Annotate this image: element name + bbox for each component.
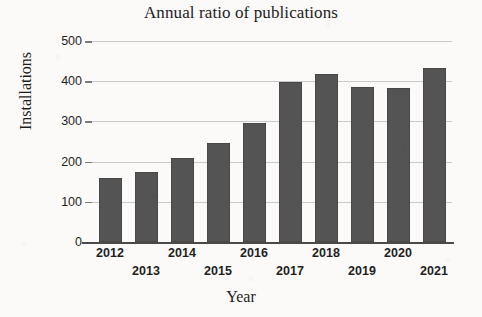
x-axis-title: Year xyxy=(0,288,482,306)
x-axis-tick-label: 2020 xyxy=(375,246,421,260)
bar xyxy=(387,88,410,242)
bar xyxy=(351,87,374,242)
y-axis-tick-label: 500 xyxy=(40,34,82,48)
x-axis-tick-label: 2015 xyxy=(195,264,241,278)
bar xyxy=(135,172,158,242)
y-axis-tick xyxy=(85,81,92,83)
y-axis-tick-label: 100 xyxy=(40,195,82,209)
x-axis-tick-label: 2019 xyxy=(339,264,385,278)
y-axis-tick xyxy=(85,162,92,164)
bar xyxy=(171,158,194,242)
x-axis-tick-label: 2021 xyxy=(411,264,457,278)
x-axis-tick-label: 2016 xyxy=(231,246,277,260)
x-axis-tick-label: 2014 xyxy=(159,246,205,260)
plot-area xyxy=(92,41,452,242)
bar xyxy=(279,82,302,242)
x-axis-tick-label: 2012 xyxy=(87,246,133,260)
bar xyxy=(315,74,338,242)
y-axis-title: Installations xyxy=(17,29,35,153)
y-axis-tick-label: 400 xyxy=(40,74,82,88)
bar xyxy=(243,123,266,242)
y-axis-tick xyxy=(85,41,92,43)
chart-title: Annual ratio of publications xyxy=(0,3,482,23)
y-axis-tick xyxy=(85,202,92,204)
x-axis-tick-label: 2013 xyxy=(123,264,169,278)
bar xyxy=(99,178,122,242)
bar xyxy=(207,143,230,242)
y-axis-tick xyxy=(85,121,92,123)
x-axis-line xyxy=(82,242,454,244)
y-axis-tick-label: 200 xyxy=(40,155,82,169)
gridline xyxy=(92,41,452,42)
gridline xyxy=(92,81,452,82)
bar xyxy=(423,68,446,242)
x-axis-tick-label: 2017 xyxy=(267,264,313,278)
bar-chart-figure: Annual ratio of publications Installatio… xyxy=(0,0,482,317)
y-axis-tick-label: 0 xyxy=(40,235,82,249)
x-axis-tick-label: 2018 xyxy=(303,246,349,260)
y-axis-tick-label: 300 xyxy=(40,114,82,128)
